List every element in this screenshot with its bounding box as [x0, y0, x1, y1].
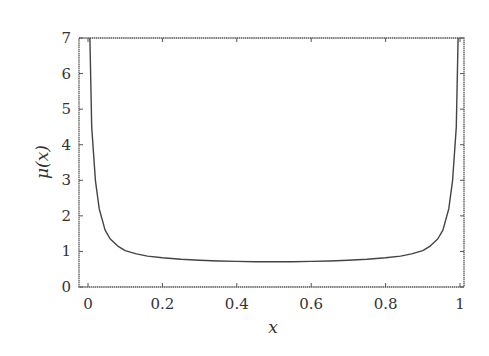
x-tick-label: 1	[455, 295, 465, 313]
y-axis-label: μ(x)	[32, 145, 52, 179]
x-tick-label: 0	[83, 295, 93, 313]
y-tick-label: 5	[61, 100, 71, 118]
x-tick-label: 0.4	[225, 295, 249, 313]
y-tick-label: 6	[61, 65, 71, 83]
x-axis-ticks: 00.20.40.60.81	[83, 38, 465, 313]
y-tick-label: 3	[61, 171, 71, 189]
y-tick-label: 1	[61, 242, 71, 260]
y-tick-label: 4	[61, 136, 71, 154]
mu-curve	[90, 38, 458, 262]
x-axis-label: x	[268, 317, 278, 337]
plot-frame	[79, 38, 464, 287]
y-tick-label: 2	[61, 207, 71, 225]
x-tick-label: 0.6	[299, 295, 323, 313]
x-tick-label: 0.2	[150, 295, 174, 313]
x-tick-label: 0.8	[374, 295, 398, 313]
y-tick-label: 0	[61, 278, 71, 296]
y-tick-label: 7	[61, 29, 71, 47]
chart: 01234567 00.20.40.60.81 x μ(x)	[0, 0, 489, 356]
